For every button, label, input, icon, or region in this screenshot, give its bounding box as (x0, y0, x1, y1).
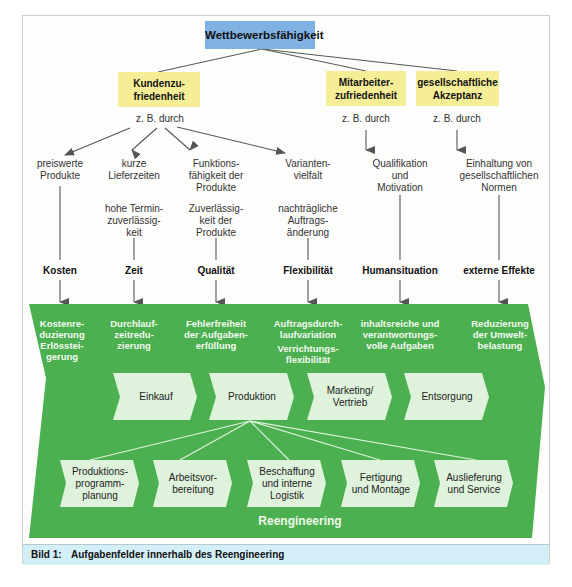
text-line: belastung (460, 340, 540, 351)
text-line: zuverlässig- (94, 215, 174, 227)
subprocess-auslieferung-service: Auslieferung und Service (438, 460, 510, 507)
goal-label-line: Mitarbeiter- (335, 76, 397, 89)
text-line: Produkte (176, 227, 256, 239)
caption-text: Aufgabenfelder innerhalb des Reengineeri… (71, 549, 284, 560)
text-line: volle Aufgaben (350, 340, 450, 351)
via-label-mitarbeiter: z. B. durch (326, 113, 406, 124)
text-line: Zuverlässig- (176, 203, 256, 215)
goal-label-line: Akzeptanz (417, 89, 498, 102)
effect-kostenreduzierung: Kostenre- duzierung Erlösstei- gerung (30, 318, 94, 362)
means-einhaltung-normen: Einhaltung von gesellschaftlichen Normen (449, 158, 549, 194)
text-line: Varianten- (266, 158, 350, 170)
text-line: Auftrags- (264, 215, 352, 227)
text-line: Produkte (174, 182, 258, 194)
effect-fehlerfreiheit: Fehlerfreiheit der Aufgaben- erfüllung (176, 318, 256, 351)
means-kurze-lieferzeiten: kurze Lieferzeiten (96, 158, 172, 182)
via-label-kunden: z. B. durch (120, 113, 200, 124)
text-line: Erlösstei- (30, 340, 94, 351)
text-line: flexibilität (264, 354, 352, 365)
criteria-arrows (60, 280, 499, 302)
text-line: vielfalt (266, 170, 350, 182)
text-line: änderung (264, 227, 352, 239)
text-line: gerung (30, 351, 94, 362)
means-preiswerte-produkte: preiswerte Produkte (22, 158, 98, 182)
text-line: kurze (96, 158, 172, 170)
means-variantenvielfalt: Varianten- vielfalt (266, 158, 350, 182)
criterion-humansituation: Humansituation (352, 265, 448, 276)
process-entsorgung: Entsorgung (409, 373, 485, 420)
criterion-kosten: Kosten (22, 265, 98, 276)
caption-number: Bild 1: (31, 545, 71, 565)
effect-inhaltsreiche-aufgaben: inhaltsreiche und verantwortungs- volle … (350, 318, 450, 351)
text-line: Motivation (356, 182, 444, 194)
criterion-qualitaet: Qualität (176, 265, 256, 276)
text-line: inhaltsreiche und (350, 318, 450, 329)
means-funktionsfaehigkeit: Funktions- fähigkeit der Produkte (174, 158, 258, 194)
effect-umweltbelastung: Reduzierung der Umwelt- belastung (460, 318, 540, 351)
text-line: der Aufgaben- (176, 329, 256, 340)
detail-terminzuverlaessigkeit: hohe Termin- zuverlässig- keit (94, 203, 174, 239)
text-line: laufvariation (264, 329, 352, 340)
effect-durchlaufzeitreduzierung: Durchlauf- zeitredu- zierung (100, 318, 168, 351)
subprocess-fertigung-montage: Fertigung und Montage (345, 460, 417, 507)
text-line: Verrichtungs- (264, 343, 352, 354)
text-line: Auftragsdurch- (264, 318, 352, 329)
text-line: gesellschaftlichen (449, 170, 549, 182)
text-line: und (356, 170, 444, 182)
text-line: Lieferzeiten (96, 170, 172, 182)
effect-auftragsdurchlaufvariation: Auftragsdurch- laufvariation Verrichtung… (264, 318, 352, 365)
text-line: Reduzierung (460, 318, 540, 329)
process-produktion: Produktion (214, 373, 290, 420)
means-connectors (65, 127, 457, 155)
text-line: Kostenre- (30, 318, 94, 329)
means-qualifikation-motivation: Qualifikation und Motivation (356, 158, 444, 194)
text-line: Einhaltung von (449, 158, 549, 170)
root-connectors (158, 49, 457, 72)
text-line: duzierung (30, 329, 94, 340)
goal-label-line: friedenheit (133, 90, 185, 103)
text-line: keit (94, 227, 174, 239)
text-line: keit der (176, 215, 256, 227)
text-line: Funktions- (174, 158, 258, 170)
goal-kundenzufriedenheit: Kundenzu- friedenheit (118, 72, 200, 107)
via-label-gesellschaft: z. B. durch (417, 113, 497, 124)
goal-label-line: Kundenzu- (133, 77, 185, 90)
text-line: verantwortungs- (350, 329, 450, 340)
goal-label-line: gesellschaftliche (417, 76, 498, 89)
text-line: erfüllung (176, 340, 256, 351)
subprocess-beschaffung-logistik: Beschaffung und interne Logistik (251, 460, 323, 507)
text-line: Produkte (22, 170, 98, 182)
text-line: zeitredu- (100, 329, 168, 340)
figure-caption: Bild 1:Aufgabenfelder innerhalb des Reen… (23, 544, 549, 565)
subprocess-arbeitsvorbereitung: Arbeitsvor- bereitung (157, 460, 229, 507)
text-line: Durchlauf- (100, 318, 168, 329)
text-line: Normen (449, 182, 549, 194)
text-line: preiswerte (22, 158, 98, 170)
subprocess-produktionsprogrammplanung: Produktions- programm- planung (64, 460, 136, 507)
detail-auftragsaenderung: nachträgliche Auftrags- änderung (264, 203, 352, 239)
text-line: fähigkeit der (174, 170, 258, 182)
text-line: Qualifikation (356, 158, 444, 170)
root-node-wettbewerbsfaehigkeit: Wettbewerbsfähigkeit (205, 21, 315, 49)
text-line: hohe Termin- (94, 203, 174, 215)
goal-mitarbeiterzufriedenheit: Mitarbeiter- zufriedenheit (326, 71, 406, 106)
text-line: zierung (100, 340, 168, 351)
text-line: Fehlerfreiheit (176, 318, 256, 329)
text-line: der Umwelt- (460, 329, 540, 340)
criterion-zeit: Zeit (96, 265, 172, 276)
process-marketing-vertrieb: Marketing/ Vertrieb (312, 373, 388, 420)
criterion-externe-effekte: externe Effekte (449, 265, 549, 276)
reengineering-label: Reengineering (200, 514, 400, 528)
goal-gesellschaftliche-akzeptanz: gesellschaftliche Akzeptanz (416, 71, 499, 106)
criterion-flexibilitaet: Flexibilität (266, 265, 350, 276)
goal-label-line: zufriedenheit (335, 89, 397, 102)
text-line: nachträgliche (264, 203, 352, 215)
detail-zuverlaessigkeit-produkte: Zuverlässig- keit der Produkte (176, 203, 256, 239)
process-einkauf: Einkauf (118, 373, 194, 420)
